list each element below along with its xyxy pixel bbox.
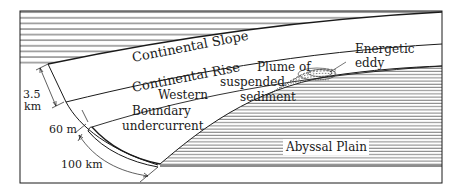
plume-label-line3: sediment [240,90,296,104]
abyssal-plain-label: Abyssal Plain [285,140,367,154]
plume-label-line1: Plume of [257,60,312,74]
ocean-margin-diagram: Continental Slope Continental Rise Weste… [0,0,453,194]
boundary-label: Boundary [132,104,191,118]
eddy-leader-line [330,62,346,72]
western-label: Western [158,88,208,102]
plume-label-line2: suspended [220,75,285,89]
eddy-label-line1: Energetic [355,42,415,56]
depth-unit-label: km [24,100,42,113]
eddy-label-line2: eddy [355,56,384,70]
undercurrent-label: undercurrent [122,119,204,133]
thickness-label: 60 m [49,123,77,136]
thickness-dimension [75,110,88,141]
width-label: 100 km [61,158,103,171]
